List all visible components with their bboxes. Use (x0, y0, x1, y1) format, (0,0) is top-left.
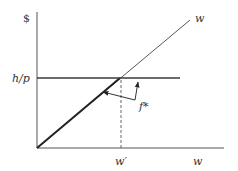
f-star-pointer-arrow (103, 82, 138, 100)
y-axis-label: $ (23, 12, 30, 25)
payoff-diagram: $ h/p w f* w′ w (0, 0, 238, 171)
diagonal-w-label: w (195, 12, 205, 25)
f-star-label: f* (138, 100, 149, 113)
w-prime-tick-label: w′ (115, 155, 127, 168)
h-over-p-label: h/p (12, 72, 30, 85)
x-axis-label: w (193, 155, 203, 168)
f-star-diagonal-segment (37, 78, 120, 148)
